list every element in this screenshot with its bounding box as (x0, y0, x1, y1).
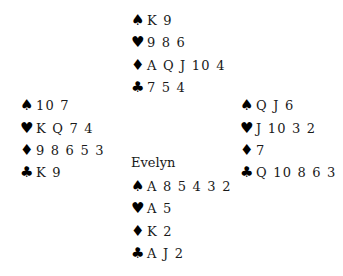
west-clubs-cards: K 9 (36, 165, 62, 180)
north-clubs: ♣7 5 4 (131, 79, 186, 96)
west-spades-cards: 10 7 (36, 98, 70, 113)
east-diamonds: ♦7 (240, 142, 265, 159)
club-icon: ♣ (240, 164, 256, 180)
north-diamonds: ♦A Q J 10 4 (131, 57, 226, 74)
north-spades-cards: K 9 (147, 13, 173, 28)
diamond-icon: ♦ (20, 142, 36, 158)
north-hearts-cards: 9 8 6 (147, 35, 186, 50)
south-spades: ♠A 8 5 4 3 2 (131, 178, 232, 195)
spade-icon: ♠ (131, 12, 147, 28)
west-diamonds-cards: 9 8 6 5 3 (36, 143, 105, 158)
north-spades: ♠K 9 (131, 12, 173, 29)
spade-icon: ♠ (240, 97, 256, 113)
east-clubs-cards: Q 10 8 6 3 (256, 165, 337, 180)
south-diamonds: ♦K 2 (131, 223, 173, 240)
south-hearts: ♥A 5 (131, 200, 172, 217)
east-hearts-cards: J 10 3 2 (256, 121, 316, 136)
heart-icon: ♥ (131, 34, 147, 50)
east-diamonds-cards: 7 (256, 143, 265, 158)
east-clubs: ♣Q 10 8 6 3 (240, 164, 337, 181)
north-hearts: ♥9 8 6 (131, 34, 186, 51)
south-clubs-cards: A J 2 (147, 246, 184, 261)
south-player-name: Evelyn (131, 155, 175, 171)
spade-icon: ♠ (131, 178, 147, 194)
spade-icon: ♠ (20, 97, 36, 113)
heart-icon: ♥ (20, 120, 36, 136)
west-hearts-cards: K Q 7 4 (36, 121, 94, 136)
west-spades: ♠10 7 (20, 97, 70, 114)
club-icon: ♣ (131, 245, 147, 261)
club-icon: ♣ (20, 164, 36, 180)
west-hearts: ♥K Q 7 4 (20, 120, 94, 137)
club-icon: ♣ (131, 79, 147, 95)
diamond-icon: ♦ (240, 142, 256, 158)
south-hearts-cards: A 5 (147, 201, 172, 216)
north-clubs-cards: 7 5 4 (147, 80, 186, 95)
west-diamonds: ♦9 8 6 5 3 (20, 142, 105, 159)
east-spades: ♠Q J 6 (240, 97, 294, 114)
east-hearts: ♥J 10 3 2 (240, 120, 316, 137)
heart-icon: ♥ (131, 200, 147, 216)
diamond-icon: ♦ (131, 57, 147, 73)
west-clubs: ♣K 9 (20, 164, 62, 181)
south-clubs: ♣A J 2 (131, 245, 184, 262)
east-spades-cards: Q J 6 (256, 98, 294, 113)
heart-icon: ♥ (240, 120, 256, 136)
north-diamonds-cards: A Q J 10 4 (147, 58, 226, 73)
south-spades-cards: A 8 5 4 3 2 (147, 179, 232, 194)
south-diamonds-cards: K 2 (147, 224, 173, 239)
diamond-icon: ♦ (131, 223, 147, 239)
